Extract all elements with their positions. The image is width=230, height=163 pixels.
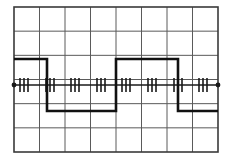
- oscilloscope-svg: [0, 0, 230, 163]
- axis-left-endpoint-dot: [12, 83, 17, 88]
- oscilloscope-display: [0, 0, 230, 163]
- axis-right-endpoint-dot: [216, 83, 221, 88]
